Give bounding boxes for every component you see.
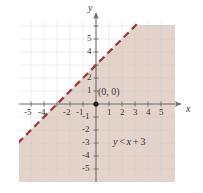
x-tick-label-1: 1 bbox=[107, 108, 112, 117]
inequality-plus-sign: + bbox=[133, 136, 139, 147]
y-tick-label-1: 1 bbox=[87, 86, 92, 95]
y-tick-label--2: -2 bbox=[82, 125, 90, 134]
x-tick-label-3: 3 bbox=[133, 108, 138, 117]
x-tick-label-5: 5 bbox=[159, 108, 164, 117]
inequality-graph-figure: -5 -4 -2 -1 1 2 3 4 5 5 4 2 1 -1 -2 -3 -… bbox=[0, 0, 203, 193]
inequality-constant: 3 bbox=[140, 136, 145, 147]
inequality-rhs-var: x bbox=[127, 136, 132, 147]
x-axis-label: x bbox=[186, 104, 190, 114]
origin-point-marker bbox=[93, 101, 98, 106]
y-tick-label--4: -4 bbox=[82, 151, 90, 160]
y-tick-label--1: -1 bbox=[82, 112, 90, 121]
y-tick-label-4: 4 bbox=[87, 47, 92, 56]
y-tick-label-2: 2 bbox=[87, 73, 92, 82]
inequality-lhs: y bbox=[113, 136, 118, 147]
x-tick-label-4: 4 bbox=[146, 108, 151, 117]
x-tick-label--2: -2 bbox=[63, 108, 71, 117]
x-tick-label-2: 2 bbox=[120, 108, 125, 117]
x-tick-label--5: -5 bbox=[24, 108, 32, 117]
y-axis-label: y bbox=[88, 3, 92, 13]
origin-point-label: (0, 0) bbox=[98, 87, 120, 97]
y-tick-label-5: 5 bbox=[87, 34, 92, 43]
y-tick-label--3: -3 bbox=[82, 138, 90, 147]
inequality-label: y<x+3 bbox=[113, 137, 145, 148]
y-tick-label--5: -5 bbox=[82, 164, 90, 173]
inequality-operator: < bbox=[119, 136, 125, 147]
x-tick-label--4: -4 bbox=[38, 108, 46, 117]
